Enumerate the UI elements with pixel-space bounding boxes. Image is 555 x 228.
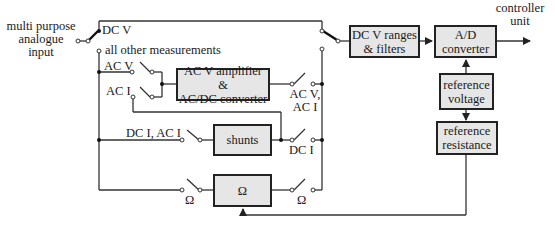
output-label: controller unit — [490, 2, 550, 28]
switch-label-dc-i: DC I — [289, 144, 314, 157]
switch-label-ohm-left: Ω — [185, 194, 194, 207]
output-label-line2: unit — [490, 15, 550, 28]
dcv-label-line2: & filters — [352, 42, 417, 56]
refv-label-line2: voltage — [443, 92, 489, 106]
input-label: multi purpose analogue input — [3, 20, 79, 59]
shunts-block: shunts — [213, 124, 272, 156]
adc-label-line2: converter — [442, 42, 489, 56]
switch-label-dc-v: DC V — [102, 24, 131, 37]
switch-label-dc-i-ac-i: DC I, AC I — [126, 127, 181, 140]
refr-label-line2: resistance — [442, 138, 491, 152]
refr-label-line1: reference — [442, 124, 491, 138]
reference-resistance-block: reference resistance — [436, 121, 498, 155]
input-label-line3: input — [3, 46, 79, 59]
dc-v-ranges-filters-block: DC V ranges & filters — [349, 25, 420, 58]
reference-voltage-block: reference voltage — [439, 73, 494, 110]
ac-amp-label-line2: AC/DC converter — [178, 92, 268, 106]
adc-label-line1: A/D — [442, 28, 489, 42]
ohm-block: Ω — [213, 174, 272, 207]
ac-v-amplifier-block: AC V amplifier & AC/DC converter — [176, 68, 270, 101]
dcv-label-line1: DC V ranges — [352, 28, 417, 42]
switch-label-ac-v: AC V — [104, 60, 133, 73]
ac-amp-label-line1: AC V amplifier & — [178, 64, 268, 92]
switch-label-ac-v-ac-i-line2: AC I — [286, 101, 324, 114]
switch-label-all-other: all other measurements — [105, 44, 221, 57]
switch-label-ac-v-ac-i: AC V, AC I — [286, 88, 324, 114]
switch-label-ohm-right: Ω — [297, 194, 306, 207]
switch-label-ac-i: AC I — [106, 85, 131, 98]
ad-converter-block: A/D converter — [434, 25, 497, 58]
refv-label-line1: reference — [443, 78, 489, 92]
